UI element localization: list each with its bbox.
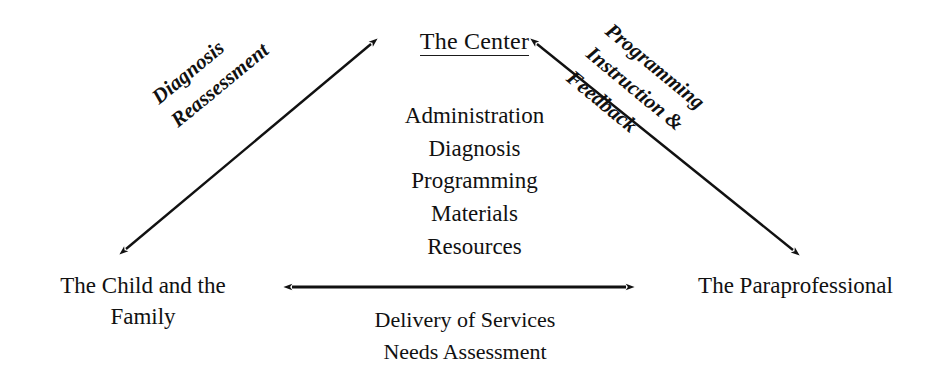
- node-the-center-label: The Center: [420, 28, 529, 56]
- center-functions-list: Administration Diagnosis Programming Mat…: [0, 100, 949, 263]
- center-function-item: Resources: [0, 231, 949, 264]
- node-paraprofessional-line1: The Paraprofessional: [648, 270, 943, 301]
- center-function-item: Administration: [0, 100, 949, 133]
- node-child-and-family-line1: The Child and the: [8, 270, 278, 301]
- node-the-center: The Center: [0, 26, 949, 57]
- edge-label-bottom-line1: Delivery of Services: [320, 304, 610, 336]
- node-paraprofessional: The Paraprofessional: [648, 270, 943, 301]
- center-function-item: Diagnosis: [0, 133, 949, 166]
- edge-label-bottom: Delivery of Services Needs Assessment: [320, 304, 610, 368]
- center-function-item: Materials: [0, 198, 949, 231]
- node-child-and-family: The Child and the Family: [8, 270, 278, 332]
- center-function-item: Programming: [0, 165, 949, 198]
- edge-label-bottom-line2: Needs Assessment: [320, 336, 610, 368]
- node-child-and-family-line2: Family: [8, 301, 278, 332]
- diagram-canvas: The Center Administration Diagnosis Prog…: [0, 0, 949, 387]
